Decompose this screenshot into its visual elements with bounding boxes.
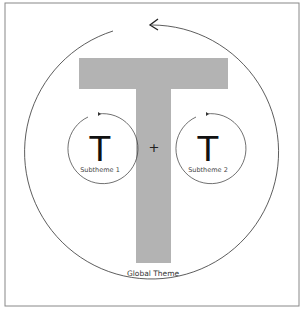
- global-theme-label: Global Theme: [127, 269, 180, 278]
- subtheme-1-label: Subtheme 1: [80, 166, 120, 174]
- plus-operator: +: [149, 140, 160, 155]
- diagram-canvas: T Subtheme 1 T Subtheme 2 + Global Theme: [0, 0, 303, 316]
- subtheme-1-letter: T: [89, 129, 111, 169]
- subtheme-2-letter: T: [197, 129, 219, 169]
- subtheme-2-label: Subtheme 2: [188, 166, 228, 174]
